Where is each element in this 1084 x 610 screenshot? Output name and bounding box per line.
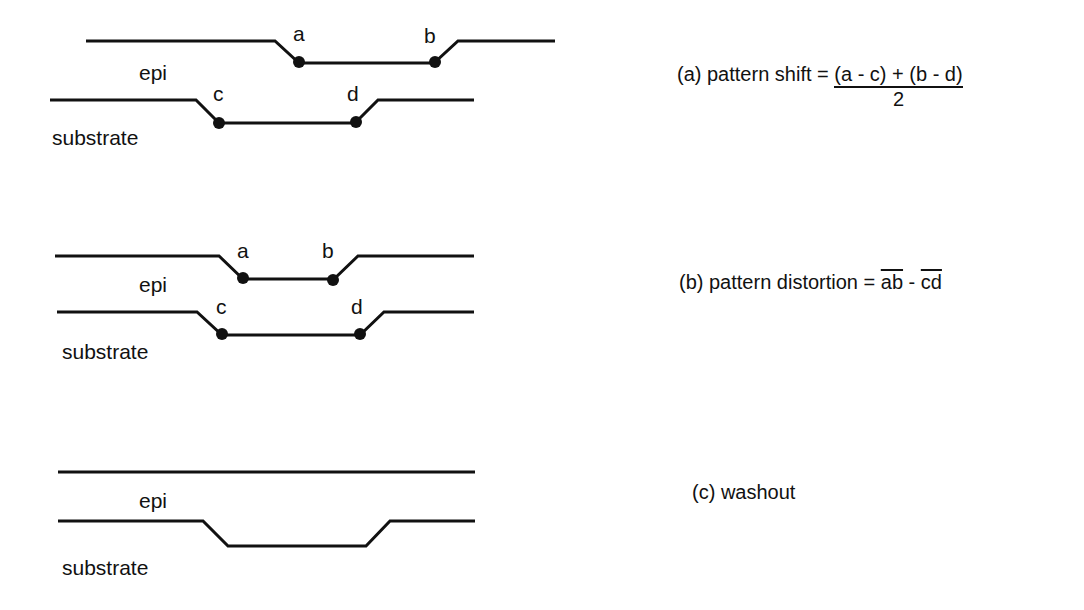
point-a-dot — [237, 272, 249, 284]
point-a-label: a — [293, 23, 305, 44]
point-b-dot — [327, 274, 339, 286]
point-c-label: c — [213, 83, 224, 104]
panel-b-epi-surface — [55, 256, 474, 279]
point-c-label: c — [216, 296, 227, 317]
panel-c-substrate-surface — [58, 521, 475, 546]
segment-ab: ab — [881, 271, 903, 293]
pattern-distortion-formula: (b) pattern distortion = ab - cd — [679, 272, 942, 292]
point-c-dot — [213, 117, 225, 129]
epi-label: epi — [139, 490, 167, 511]
panel-a-substrate-surface — [50, 100, 474, 123]
caption-prefix: (a) pattern shift = — [677, 63, 834, 85]
point-b-dot — [429, 56, 441, 68]
pattern-shift-formula: (a) pattern shift = (a - c) + (b - d)2 — [677, 64, 963, 109]
point-d-label: d — [351, 296, 363, 317]
substrate-label: substrate — [52, 127, 138, 148]
segment-cd: cd — [921, 271, 942, 293]
fraction-denominator: 2 — [834, 88, 962, 109]
point-c-dot — [216, 328, 228, 340]
substrate-label: substrate — [62, 557, 148, 578]
caption-prefix: (b) pattern distortion = — [679, 271, 881, 293]
epi-label: epi — [139, 274, 167, 295]
substrate-label: substrate — [62, 341, 148, 362]
point-b-label: b — [424, 25, 436, 46]
minus-sign: - — [903, 271, 921, 293]
epi-label: epi — [139, 62, 167, 83]
point-b-label: b — [322, 240, 334, 261]
panel-b-substrate-surface — [57, 312, 474, 335]
washout-caption: (c) washout — [692, 482, 795, 502]
point-a-label: a — [237, 240, 249, 261]
panel-a-epi-surface — [86, 41, 555, 63]
point-d-dot — [350, 116, 362, 128]
fraction-numerator: (a - c) + (b - d) — [834, 64, 962, 88]
point-a-dot — [293, 56, 305, 68]
point-d-label: d — [347, 83, 359, 104]
fraction: (a - c) + (b - d)2 — [834, 64, 962, 109]
point-d-dot — [354, 328, 366, 340]
